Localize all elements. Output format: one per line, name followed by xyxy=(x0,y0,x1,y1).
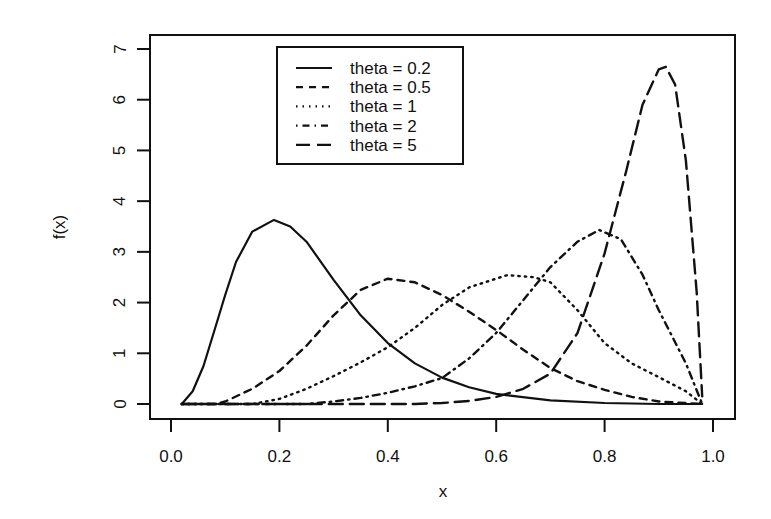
x-tick-label: 0.4 xyxy=(376,447,400,466)
y-tick-label: 2 xyxy=(111,298,130,307)
y-tick-label: 4 xyxy=(111,196,130,205)
legend-label: theta = 0.5 xyxy=(350,78,431,97)
legend: theta = 0.2theta = 0.5theta = 1theta = 2… xyxy=(277,47,463,164)
density-chart: 01234567 0.00.20.40.60.81.0 x f(x) theta… xyxy=(0,0,771,519)
x-tick-label: 0.0 xyxy=(159,447,183,466)
y-axis-label: f(x) xyxy=(50,215,69,240)
x-tick-label: 0.8 xyxy=(593,447,617,466)
y-tick-label: 7 xyxy=(111,44,130,53)
x-tick-label: 1.0 xyxy=(701,447,725,466)
x-axis-label: x xyxy=(439,482,448,501)
x-axis: 0.00.20.40.60.81.0 xyxy=(159,419,725,466)
curve-theta-0-2 xyxy=(182,220,702,404)
y-tick-label: 3 xyxy=(111,247,130,256)
y-tick-label: 6 xyxy=(111,95,130,104)
legend-label: theta = 5 xyxy=(350,136,417,155)
legend-label: theta = 0.2 xyxy=(350,59,431,78)
y-tick-label: 0 xyxy=(111,399,130,408)
y-tick-label: 1 xyxy=(111,349,130,358)
x-tick-label: 0.2 xyxy=(268,447,292,466)
legend-label: theta = 2 xyxy=(350,117,417,136)
y-axis: 01234567 xyxy=(111,44,151,408)
curve-theta-0-5 xyxy=(182,279,702,404)
y-tick-label: 5 xyxy=(111,146,130,155)
legend-label: theta = 1 xyxy=(350,97,417,116)
x-tick-label: 0.6 xyxy=(484,447,508,466)
